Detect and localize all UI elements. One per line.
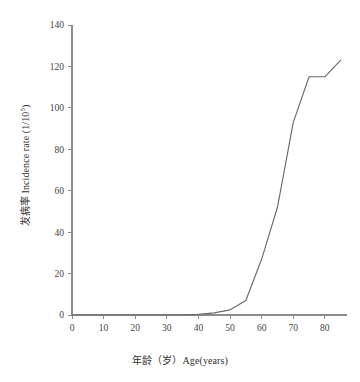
y-axis-tick-labels: 020406080100120140 — [50, 20, 65, 320]
y-tick-label: 20 — [55, 269, 65, 279]
y-tick-label: 120 — [50, 62, 65, 72]
chart-axes — [72, 25, 347, 315]
x-tick-label: 30 — [162, 323, 172, 333]
y-tick-label: 0 — [59, 310, 64, 320]
x-tick-label: 50 — [225, 323, 235, 333]
x-tick-label: 70 — [289, 323, 299, 333]
y-tick-label: 100 — [50, 103, 65, 113]
y-tick-label: 60 — [55, 186, 65, 196]
x-tick-label: 20 — [130, 323, 140, 333]
y-axis-title-wrapper: 发病率 Incidence rate (1/105) — [14, 0, 36, 330]
incidence-rate-line — [72, 60, 341, 315]
x-axis-ticks — [72, 315, 325, 319]
x-tick-label: 80 — [320, 323, 330, 333]
y-tick-label: 140 — [50, 20, 65, 30]
y-axis-title-en: Incidence rate (1/10 — [21, 111, 32, 193]
x-tick-label: 60 — [257, 323, 267, 333]
x-axis-tick-labels: 01020304050607080 — [70, 323, 330, 333]
y-tick-label: 40 — [55, 228, 65, 238]
y-axis-ticks — [68, 25, 72, 315]
x-tick-label: 0 — [70, 323, 75, 333]
chart-figure: 020406080100120140 01020304050607080 发病率… — [0, 0, 360, 382]
x-tick-label: 40 — [194, 323, 204, 333]
y-axis-title: 发病率 Incidence rate (1/105) — [18, 104, 33, 226]
x-axis-title: 年龄（岁）Age(years) — [0, 352, 360, 367]
y-axis-title-exponent: 5 — [19, 107, 27, 111]
y-axis-title-tail: ) — [21, 104, 32, 107]
y-tick-label: 80 — [55, 145, 65, 155]
x-tick-label: 10 — [99, 323, 109, 333]
line-chart-canvas: 020406080100120140 01020304050607080 — [0, 0, 360, 382]
y-axis-title-cn: 发病率 — [21, 196, 32, 226]
